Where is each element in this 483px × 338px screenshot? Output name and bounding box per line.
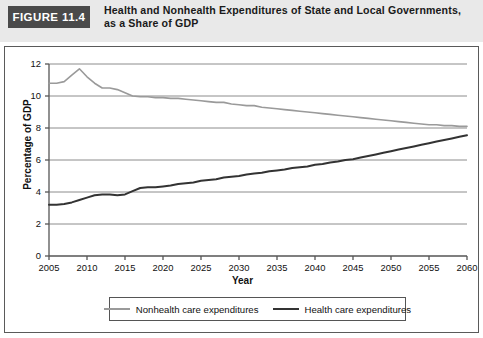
x-tick-label: 2040: [298, 262, 332, 273]
x-tick-label: 2020: [146, 262, 180, 273]
x-tick-label: 2050: [374, 262, 408, 273]
x-tick-label: 2010: [70, 262, 104, 273]
figure-title: Health and Nonhealth Expenditures of Sta…: [104, 4, 476, 31]
legend-entry[interactable]: Nonhealth care expenditures: [104, 304, 259, 315]
figure-container: FIGURE 11.4 Health and Nonhealth Expendi…: [0, 0, 483, 338]
y-tick-label: 0: [19, 250, 41, 261]
x-tick-label: 2060: [450, 262, 483, 273]
y-tick-label: 12: [19, 58, 41, 69]
y-tick-label: 8: [19, 122, 41, 133]
x-tick-label: 2030: [222, 262, 256, 273]
figure-header: FIGURE 11.4 Health and Nonhealth Expendi…: [0, 0, 483, 42]
x-tick-label: 2015: [108, 262, 142, 273]
figure-number-tag: FIGURE 11.4: [8, 6, 90, 28]
y-tick-label: 4: [19, 186, 41, 197]
legend-label: Nonhealth care expenditures: [136, 304, 259, 315]
chart-legend: Nonhealth care expendituresHealth care e…: [109, 297, 406, 321]
y-tick-label: 2: [19, 218, 41, 229]
legend-line-swatch-health: [273, 308, 299, 310]
chart-frame: Percentage of GDP Year 02468101220052010…: [4, 46, 479, 333]
x-tick-label: 2055: [412, 262, 446, 273]
legend-line-swatch-nonhealth: [104, 308, 130, 310]
x-axis-title: Year: [5, 275, 480, 286]
x-tick-label: 2025: [184, 262, 218, 273]
chart-plot: [5, 47, 480, 334]
x-tick-label: 2045: [336, 262, 370, 273]
x-tick-label: 2035: [260, 262, 294, 273]
legend-entry[interactable]: Health care expenditures: [273, 304, 412, 315]
x-tick-label: 2005: [32, 262, 66, 273]
y-tick-label: 10: [19, 90, 41, 101]
legend-label: Health care expenditures: [305, 304, 412, 315]
y-tick-label: 6: [19, 154, 41, 165]
